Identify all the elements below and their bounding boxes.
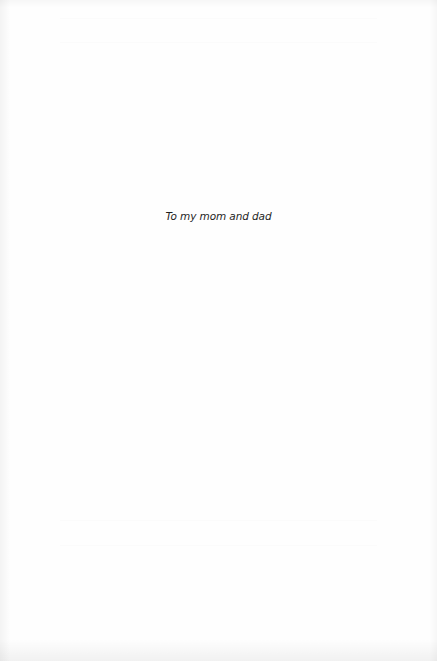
bleed-through-line (60, 18, 377, 19)
bleed-through-line (60, 520, 377, 521)
scan-edge-shading (0, 0, 437, 661)
dedication-page: To my mom and dad (0, 0, 437, 661)
bleed-through-line (60, 545, 377, 546)
bleed-through-line (60, 42, 377, 43)
dedication-text: To my mom and dad (0, 209, 437, 223)
